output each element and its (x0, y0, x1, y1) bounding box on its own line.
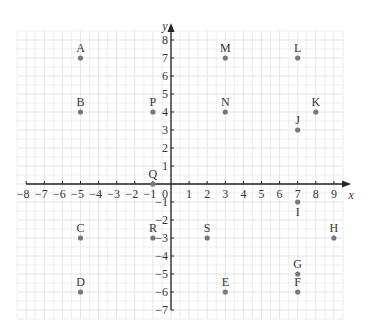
x-tick-label: −2 (125, 187, 138, 201)
point-l: L (294, 41, 301, 61)
point-label: B (76, 95, 84, 109)
x-tick-label: −7 (35, 187, 48, 201)
point-marker (295, 289, 300, 294)
point-label: J (295, 113, 300, 127)
x-tick-label: 9 (331, 187, 337, 201)
y-tick-label: −1 (155, 195, 168, 209)
x-tick-label: −5 (71, 187, 84, 201)
point-label: H (330, 221, 339, 235)
point-marker (150, 181, 155, 186)
point-marker (223, 289, 228, 294)
point-label: I (296, 205, 300, 219)
point-marker (223, 55, 228, 60)
axes: xy (26, 19, 354, 310)
y-tick-label: −5 (155, 267, 168, 281)
x-axis-label: x (347, 188, 354, 202)
y-tick-label: 5 (162, 87, 168, 101)
point-label: N (221, 95, 230, 109)
point-label: K (311, 95, 320, 109)
y-tick-label: −4 (155, 249, 168, 263)
point-label: F (294, 275, 301, 289)
point-marker (295, 199, 300, 204)
point-s: S (204, 221, 211, 241)
point-marker (205, 235, 210, 240)
point-i: I (295, 199, 300, 219)
point-marker (78, 109, 83, 114)
x-tick-label: 8 (313, 187, 319, 201)
x-tick-label: 3 (222, 187, 228, 201)
x-tick-label: 1 (186, 187, 192, 201)
point-label: G (293, 257, 302, 271)
y-tick-label: 7 (162, 51, 168, 65)
x-tick-label: 5 (259, 187, 265, 201)
y-tick-label: 3 (162, 123, 168, 137)
point-marker (313, 109, 318, 114)
y-tick-label: 4 (162, 105, 168, 119)
point-marker (295, 55, 300, 60)
point-marker (150, 235, 155, 240)
x-axis-arrow-icon (342, 181, 351, 188)
y-tick-label: 1 (162, 159, 168, 173)
point-label: Q (149, 167, 158, 181)
y-tick-label: 2 (162, 141, 168, 155)
y-axis-label: y (161, 19, 168, 33)
y-tick-label: −6 (155, 285, 168, 299)
point-label: R (149, 221, 157, 235)
point-label: P (150, 95, 157, 109)
y-tick-label: 8 (162, 33, 168, 47)
point-marker (78, 55, 83, 60)
point-marker (295, 127, 300, 132)
coordinate-plane: xy −8−7−6−5−4−3−2−11234567890−7−6−5−4−3−… (0, 0, 372, 323)
point-marker (223, 109, 228, 114)
point-label: C (76, 221, 84, 235)
point-label: S (204, 221, 211, 235)
y-tick-label: 6 (162, 69, 168, 83)
point-label: E (222, 275, 229, 289)
x-tick-label: −8 (17, 187, 30, 201)
point-e: E (222, 275, 229, 295)
point-marker (78, 235, 83, 240)
y-tick-label: −2 (155, 213, 168, 227)
x-tick-label: 6 (277, 187, 283, 201)
y-tick-label: −3 (155, 231, 168, 245)
y-axis-arrow-icon (168, 23, 175, 32)
point-marker (331, 235, 336, 240)
point-label: M (220, 41, 231, 55)
x-tick-label: 4 (240, 187, 246, 201)
point-j: J (295, 113, 300, 133)
x-tick-label: −4 (89, 187, 102, 201)
x-tick-label: −3 (107, 187, 120, 201)
point-label: A (76, 41, 85, 55)
x-tick-label: 7 (295, 187, 301, 201)
point-marker (78, 289, 83, 294)
point-marker (295, 271, 300, 276)
point-label: D (76, 275, 85, 289)
point-label: L (294, 41, 301, 55)
y-tick-label: −7 (155, 303, 168, 317)
x-tick-label: −6 (53, 187, 66, 201)
x-tick-label: 2 (204, 187, 210, 201)
point-marker (150, 109, 155, 114)
